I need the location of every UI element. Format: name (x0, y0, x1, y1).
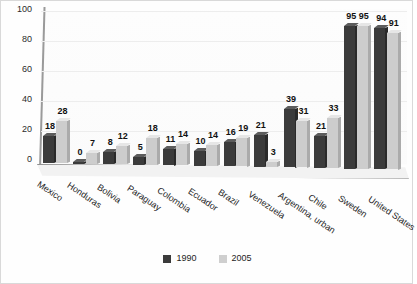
bar-face (284, 109, 295, 168)
bar-group: 9491 (374, 19, 404, 169)
bar-face (344, 26, 355, 169)
bar-2005-bolivia (116, 146, 127, 164)
bar-face (236, 138, 247, 167)
bar-2005-sweden (357, 26, 368, 169)
bar-face (56, 121, 67, 163)
bar-face (86, 153, 97, 164)
bar-1990-honduras (73, 162, 84, 164)
bar-group: 1619 (224, 16, 254, 166)
bar-group: 213 (254, 17, 284, 167)
bar-1990-sweden (344, 26, 355, 169)
legend-item-1990[interactable]: 1990 (163, 254, 196, 263)
bar-face (357, 26, 368, 169)
bar-value-label: 33 (325, 104, 343, 113)
bar-face (43, 136, 54, 163)
bar-face (266, 162, 277, 167)
bar-group: 1828 (43, 13, 73, 163)
bar-value-label: 91 (385, 19, 403, 28)
y-axis-tick-0: 0 (27, 155, 32, 164)
bar-2005-mexico (56, 121, 67, 163)
bar-1990-argentina-urban (284, 109, 295, 168)
y-axis-tick-80: 80 (22, 35, 32, 44)
bar-1990-venezuela (254, 135, 265, 167)
y-axis-tick-60: 60 (22, 65, 32, 74)
x-axis-label-brazil: Brazil (216, 187, 240, 208)
bar-value-label: 31 (294, 107, 312, 116)
legend-label: 1990 (176, 254, 196, 263)
bar-2005-ecuador (206, 145, 217, 166)
bar-face (374, 28, 385, 169)
bar-face (146, 138, 157, 165)
bar-group: 518 (133, 15, 163, 165)
bar-side (187, 143, 190, 165)
chart-legend: 19902005 (1, 254, 414, 263)
bar-face (163, 149, 174, 166)
bar-side (127, 145, 130, 164)
bar-value-label: 19 (234, 124, 252, 133)
bar-side (67, 120, 70, 163)
bar-group: 2133 (314, 18, 344, 168)
bar-face (224, 142, 235, 166)
bar-face (103, 152, 114, 164)
legend-item-2005[interactable]: 2005 (219, 254, 252, 263)
x-axis-label-united-states: United States (367, 194, 417, 233)
bar-side (217, 144, 220, 166)
y-axis: 020406080100 (1, 1, 35, 177)
legend-label: 2005 (232, 254, 252, 263)
bar-side (307, 120, 310, 168)
dark-gray-swatch (163, 255, 171, 263)
bar-2005-honduras (86, 153, 97, 164)
bar-1990-ecuador (194, 151, 205, 166)
bar-face (314, 136, 325, 168)
bar-value-label: 39 (282, 95, 300, 104)
y-axis-tick-20: 20 (22, 125, 32, 134)
bar-group: 9595 (344, 19, 374, 169)
bar-face (206, 145, 217, 166)
bar-value-label: 3 (264, 148, 282, 157)
bar-group: 1114 (163, 15, 193, 165)
bar-1990-chile (314, 136, 325, 168)
bar-1990-united-states (374, 28, 385, 169)
bar-face (194, 151, 205, 166)
bar-value-label: 95 (355, 12, 373, 21)
bar-side (338, 117, 341, 168)
bar-2005-venezuela (266, 162, 277, 167)
bar-face (327, 118, 338, 168)
bar-2005-chile (327, 118, 338, 168)
bar-side (247, 137, 250, 167)
bar-1990-brazil (224, 142, 235, 166)
x-axis-label-sweden: Sweden (337, 193, 370, 219)
bar-2005-colombia (176, 144, 187, 165)
x-axis-label-ecuador: Ecuador (186, 186, 219, 213)
bar-face (296, 121, 307, 168)
bar-side (97, 152, 100, 164)
bar-value-label: 14 (204, 131, 222, 140)
bar-value-label: 14 (174, 130, 192, 139)
bar-face (73, 162, 84, 164)
bar-value-label: 12 (114, 132, 132, 141)
bar-side (157, 136, 160, 164)
bar-side (368, 25, 371, 169)
bar-1990-mexico (43, 136, 54, 163)
bar-side (277, 161, 280, 167)
bar-value-label: 28 (54, 107, 72, 116)
bar-value-label: 21 (252, 121, 270, 130)
bar-face (133, 157, 144, 165)
bar-face (176, 144, 187, 165)
bar-2005-paraguay (146, 138, 157, 165)
bar-face (254, 135, 265, 167)
bar-2005-argentina-urban (296, 121, 307, 168)
bar-value-label: 7 (84, 139, 102, 148)
bar-1990-paraguay (133, 157, 144, 165)
bar-face (387, 33, 398, 170)
bar-1990-colombia (163, 149, 174, 166)
bar-series-container: 1828078125181114101416192133931213395959… (35, 9, 407, 177)
x-axis-label-mexico: Mexico (35, 179, 64, 203)
bar-value-label: 18 (144, 124, 162, 133)
light-gray-swatch (219, 255, 227, 263)
bar-group: 07 (73, 14, 103, 164)
bar-group: 812 (103, 14, 133, 164)
x-axis-label-colombia: Colombia (156, 185, 193, 215)
bar-face (116, 146, 127, 164)
